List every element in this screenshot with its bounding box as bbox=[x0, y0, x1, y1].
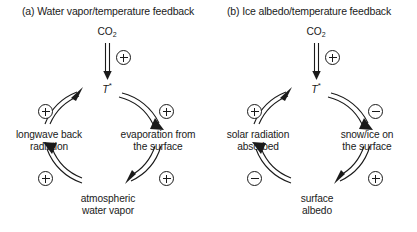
sign-badge-co2-to-tstar bbox=[325, 50, 340, 65]
arc-ur-inner bbox=[328, 97, 362, 124]
arc-ul-inner bbox=[259, 96, 288, 124]
arrowhead-to-water-vapor bbox=[125, 170, 136, 184]
co2-subscript: 2 bbox=[113, 31, 117, 38]
tstar-superscript: * bbox=[318, 81, 321, 90]
panel-ice-albedo-feedback: (b) Ice albedo/temperature feedback bbox=[209, 0, 417, 232]
sign-badge-longwave-to-tstar bbox=[38, 104, 53, 119]
sign-badge-snow-ice-to-surface-albedo bbox=[368, 171, 383, 186]
sign-badge-co2-to-tstar bbox=[116, 50, 131, 65]
sign-badge-solar-absorbed-to-tstar bbox=[247, 104, 262, 119]
node-label-surface-albedo: surface albedo bbox=[271, 193, 363, 216]
arc-ur-inner bbox=[119, 97, 153, 124]
tstar-superscript: * bbox=[109, 81, 112, 90]
co2-node-label: CO2 bbox=[286, 26, 346, 39]
co2-text: CO bbox=[307, 26, 322, 37]
tstar-node-label: T* bbox=[87, 80, 127, 95]
arrowhead-to-surface-albedo bbox=[334, 170, 345, 184]
sign-badge-tstar-to-snow-ice bbox=[368, 104, 383, 119]
co2-subscript: 2 bbox=[322, 31, 326, 38]
sign-badge-surface-albedo-to-solar-absorbed bbox=[247, 171, 262, 186]
panel-water-vapor-feedback: (a) Water vapor/temperature feedback bbox=[0, 0, 208, 232]
sign-badge-evaporation-to-water-vapor bbox=[159, 171, 174, 186]
arc-ul-inner bbox=[50, 96, 79, 124]
node-label-evaporation: evaporation from the surface bbox=[112, 129, 204, 152]
co2-arrow-head bbox=[312, 71, 320, 80]
tstar-node-label: T* bbox=[296, 80, 336, 95]
node-label-longwave: longwave back radiation bbox=[3, 129, 95, 152]
sign-badge-tstar-to-evaporation bbox=[159, 104, 174, 119]
arc-ll-inner bbox=[52, 148, 82, 178]
co2-text: CO bbox=[98, 26, 113, 37]
co2-arrow-head bbox=[103, 71, 111, 80]
sign-badge-water-vapor-to-longwave bbox=[38, 171, 53, 186]
node-label-solar-absorbed: solar radiation absorbed bbox=[212, 129, 304, 152]
node-label-water-vapor: atmospheric water vapor bbox=[62, 193, 154, 216]
co2-node-label: CO2 bbox=[77, 26, 137, 39]
node-label-snow-ice: snow/ice on the surface bbox=[323, 129, 411, 152]
arc-ll-inner bbox=[261, 148, 291, 178]
